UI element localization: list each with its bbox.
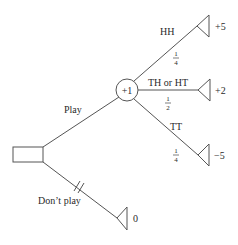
outcome-label-tt: TT — [170, 121, 182, 132]
outcome-label-th-ht: TH or HT — [148, 77, 188, 88]
decision-node — [13, 147, 43, 162]
svg-text:2: 2 — [166, 104, 170, 112]
chance-node-value: +1 — [122, 85, 133, 96]
svg-text:4: 4 — [174, 59, 178, 67]
payoff-tt: −5 — [214, 150, 225, 161]
terminal-node-th-ht — [198, 79, 210, 101]
svg-text:1: 1 — [174, 147, 178, 155]
outcome-label-hh: HH — [160, 26, 174, 37]
svg-text:1: 1 — [174, 50, 178, 58]
terminal-node-hh — [197, 15, 209, 37]
payoff-dont-play: 0 — [133, 213, 138, 224]
probability-hh: 1 4 — [173, 50, 179, 67]
dont-play-label: Don’t play — [38, 195, 81, 206]
probability-th-ht: 1 2 — [165, 95, 171, 112]
payoff-hh: +5 — [215, 21, 226, 32]
svg-text:1: 1 — [166, 95, 170, 103]
svg-text:4: 4 — [174, 156, 178, 164]
payoff-th-ht: +2 — [215, 85, 226, 96]
terminal-node-dont-play — [117, 207, 127, 230]
decision-tree-diagram: Play Don’t play 0 +1 HH 1 4 +5 TH or HT … — [0, 0, 238, 245]
terminal-node-tt — [198, 144, 209, 166]
play-label: Play — [64, 104, 82, 115]
probability-tt: 1 4 — [173, 147, 179, 164]
